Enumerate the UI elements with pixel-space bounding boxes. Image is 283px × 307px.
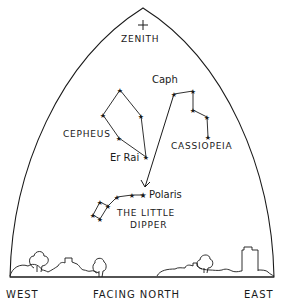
sky-chart: ★ ★ ★ ★ ★ ★ ★ ★ ★ ★ ★ ★ ★ ★ ★ ★ ★ [0, 0, 283, 307]
polaris-label: Polaris [149, 190, 182, 200]
east-building-icon [242, 247, 258, 271]
svg-text:★: ★ [138, 113, 144, 121]
east-skyline [157, 263, 274, 276]
svg-text:★: ★ [143, 154, 149, 162]
west-tree-icon [93, 258, 106, 277]
svg-text:★: ★ [105, 203, 111, 211]
svg-text:★: ★ [100, 112, 106, 120]
svg-text:★: ★ [139, 191, 146, 200]
sky-dome-outline [10, 8, 274, 277]
caph-label: Caph [152, 75, 178, 85]
er-rai-label: Er Rai [110, 153, 139, 163]
svg-text:★: ★ [129, 192, 135, 200]
svg-text:★: ★ [204, 114, 210, 122]
svg-text:★: ★ [116, 135, 122, 143]
zenith-cross-icon [138, 20, 148, 30]
svg-text:★: ★ [171, 91, 177, 99]
west-skyline [10, 252, 99, 277]
cepheus-label: CEPHEUS [63, 130, 111, 139]
little-dipper-label-line2: DIPPER [130, 221, 167, 230]
svg-text:★: ★ [97, 199, 103, 207]
svg-text:★: ★ [190, 88, 196, 96]
pointer-arrow [141, 94, 174, 187]
cepheus-lines [103, 90, 146, 157]
svg-text:★: ★ [190, 107, 196, 115]
west-label: WEST [6, 290, 39, 300]
zenith-label: ZENITH [121, 35, 159, 44]
svg-text:★: ★ [114, 194, 120, 202]
cassiopeia-label: CASSIOPEIA [171, 142, 233, 151]
east-label: EAST [244, 290, 274, 300]
svg-text:★: ★ [117, 87, 123, 95]
little-dipper-label-line1: THE LITTLE [117, 209, 175, 218]
svg-text:★: ★ [90, 212, 96, 220]
svg-text:★: ★ [97, 216, 103, 224]
facing-north-label: FACING NORTH [93, 290, 180, 300]
